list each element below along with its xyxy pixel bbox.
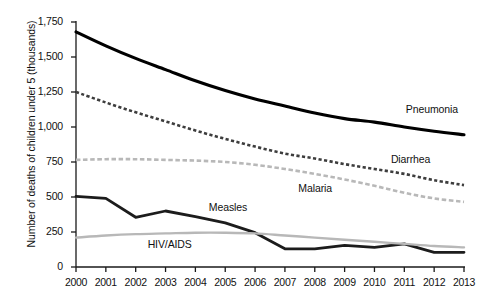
series-line-pneumonia <box>76 32 464 135</box>
series-label-diarrhea: Diarrhea <box>391 153 430 165</box>
series-label-pneumonia: Pneumonia <box>406 103 458 115</box>
y-axis-tick-label: 1,750 <box>23 15 63 27</box>
y-axis-tick-label: 250 <box>23 225 63 237</box>
series-label-malaria: Malaria <box>298 182 332 194</box>
y-axis-tick-label: 1,500 <box>23 50 63 62</box>
series-label-hiv-aids: HIV/AIDS <box>148 238 192 250</box>
plot-area <box>0 0 490 297</box>
series-line-malaria <box>76 159 464 202</box>
y-axis-tick-label: 0 <box>23 260 63 272</box>
chart-container: Number of deaths of children under 5 (th… <box>0 0 490 297</box>
x-axis-tick-label: 2013 <box>444 276 484 288</box>
y-axis-tick-label: 750 <box>23 155 63 167</box>
y-axis-tick-label: 1,000 <box>23 120 63 132</box>
y-axis-tick-label: 500 <box>23 190 63 202</box>
series-label-measles: Measles <box>209 201 247 213</box>
y-axis-tick-label: 1,250 <box>23 85 63 97</box>
